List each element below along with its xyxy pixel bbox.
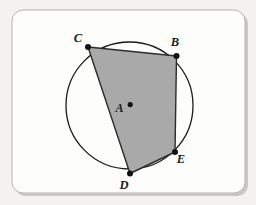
vertex-label-B: B — [170, 35, 179, 49]
vertex-label-C: C — [74, 31, 83, 45]
vertex-label-E: E — [176, 152, 185, 166]
vertex-dot-B — [174, 53, 180, 59]
center-dot-A — [128, 102, 133, 107]
geometry-figure-svg: C B E D A — [0, 0, 256, 205]
vertex-dot-D — [127, 171, 133, 177]
center-label-A: A — [114, 101, 123, 115]
vertex-dot-C — [85, 44, 91, 50]
vertex-label-D: D — [118, 178, 128, 192]
figure-root: C B E D A — [0, 0, 256, 205]
